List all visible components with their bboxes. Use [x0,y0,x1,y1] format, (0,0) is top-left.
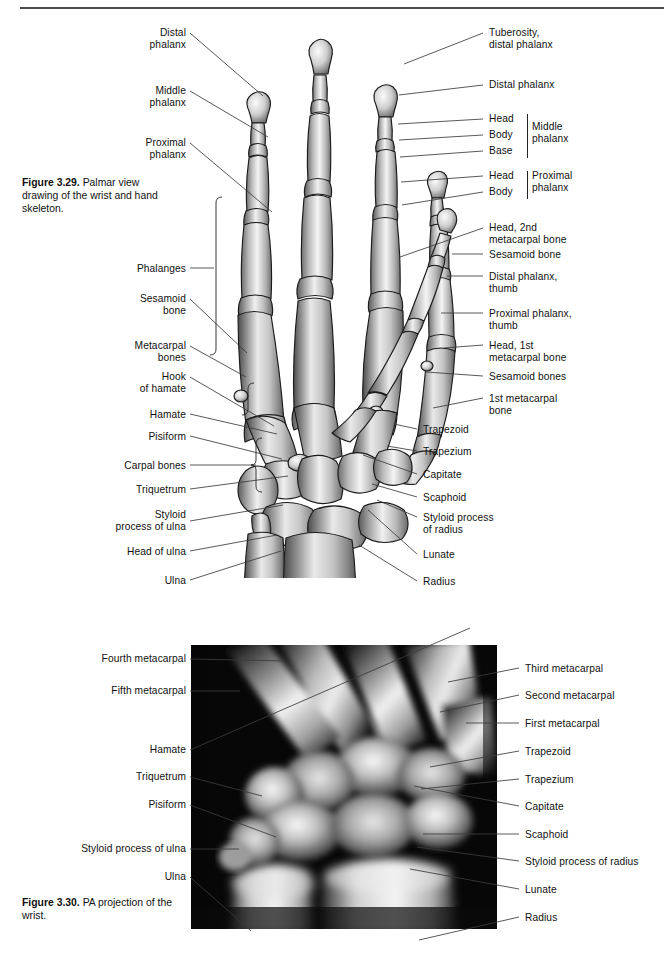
textbook-page: Figure 3.29. Palmar view drawing of the … [0,0,664,955]
bone-middle-finger [292,39,336,430]
label-radius-x: Radius [525,912,653,924]
label-styloid-process-of-ulna: Styloid process of ulna [68,509,186,534]
label-1st-metacarpal-bone: 1st metacarpal bone [489,393,617,418]
label-third-metacarpal: Third metacarpal [525,663,653,675]
label-first-metacarpal: First metacarpal [525,718,653,730]
label-middle-phalanx: Middle phalanx [100,85,186,110]
label-trapezoid-r: Trapezoid [423,424,493,436]
label-pisiform: Pisiform [128,431,186,443]
middle-phalanx-group-divider [527,114,528,158]
bone-ulna [244,532,285,578]
label-second-metacarpal: Second metacarpal [525,690,653,702]
label-body-proximal: Body [489,186,523,198]
label-head-proximal: Head [489,170,523,182]
label-distal-phalanx: Distal phalanx [100,27,186,52]
label-head-of-ulna: Head of ulna [103,546,186,558]
figure-330-caption-number: Figure 3.30. [22,897,80,908]
bone-capitate [298,455,344,503]
label-hamate-x: Hamate [131,744,186,756]
label-distal-phalanx-r: Distal phalanx [489,79,609,91]
label-middle-phalanx-group: Middle phalanx [532,121,592,146]
bone-scaphoid [359,502,408,542]
label-body-middle: Body [489,129,523,141]
label-sesamoid-bone: Sesamoid bone [108,293,186,318]
label-lunate-r: Lunate [423,549,493,561]
wrist-radiograph [191,645,497,929]
sesamoid-little [421,361,433,371]
label-hook-of-hamate: Hook of hamate [106,371,186,396]
label-styloid-process-of-radius-x: Styloid process of radius [525,856,664,868]
label-fifth-metacarpal: Fifth metacarpal [81,685,186,697]
label-carpal-bones: Carpal bones [101,460,186,472]
label-trapezoid-x: Trapezoid [525,746,653,758]
label-scaphoid-r: Scaphoid [423,492,493,504]
label-distal-phalanx-thumb: Distal phalanx, thumb [489,271,617,296]
label-base-middle: Base [489,145,523,157]
page-top-rule [20,7,664,9]
label-ulna-x: Ulna [154,871,186,883]
label-capitate-x: Capitate [525,801,653,813]
label-radius-r: Radius [423,576,493,588]
label-lunate-x: Lunate [525,884,653,896]
label-metacarpal-bones: Metacarpal bones [100,340,186,365]
bone-index-finger [238,92,287,442]
label-proximal-phalanx: Proximal phalanx [96,137,186,162]
label-head-middle: Head [489,113,523,125]
label-pisiform-x: Pisiform [128,799,186,811]
label-scaphoid-x: Scaphoid [525,829,653,841]
figure-329-caption: Figure 3.29. Palmar view drawing of the … [22,176,174,216]
figure-329-caption-number: Figure 3.29. [22,177,80,188]
label-triquetrum: Triquetrum [114,484,186,496]
label-head-1st-metacarpal: Head, 1st metacarpal bone [489,340,617,365]
label-triquetrum-x: Triquetrum [114,771,186,783]
label-trapezium-x: Trapezium [525,774,653,786]
label-tuberosity-distal-phalanx: Tuberosity, distal phalanx [489,27,609,52]
proximal-phalanx-group-divider [527,171,528,199]
label-sesamoid-bone-r: Sesamoid bone [489,249,617,261]
figure-330-caption: Figure 3.30. PA projection of the wrist. [22,896,182,922]
label-styloid-process-of-ulna-x: Styloid process of ulna [46,843,186,855]
label-proximal-phalanx-group: Proximal phalanx [532,170,598,195]
sesamoid-ulnar [234,390,248,402]
label-trapezium-r: Trapezium [423,446,493,458]
label-head-2nd-metacarpal: Head, 2nd metacarpal bone [489,222,617,247]
label-phalanges: Phalanges [118,263,186,275]
radiograph-image [191,645,497,929]
label-capitate-r: Capitate [423,469,493,481]
label-ulna: Ulna [154,575,186,587]
label-styloid-process-of-radius: Styloid process of radius [423,512,533,537]
label-sesamoid-bones: Sesamoid bones [489,371,617,383]
label-hamate: Hamate [131,409,186,421]
bone-trapezium [374,449,412,485]
bone-radius [284,532,356,578]
label-proximal-phalanx-thumb: Proximal phalanx, thumb [489,308,629,333]
label-fourth-metacarpal: Fourth metacarpal [72,653,186,665]
